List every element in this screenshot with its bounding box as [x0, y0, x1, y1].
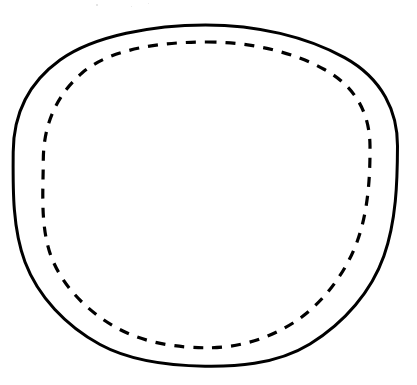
circles-figure	[0, 0, 417, 385]
figure-canvas	[0, 0, 417, 385]
